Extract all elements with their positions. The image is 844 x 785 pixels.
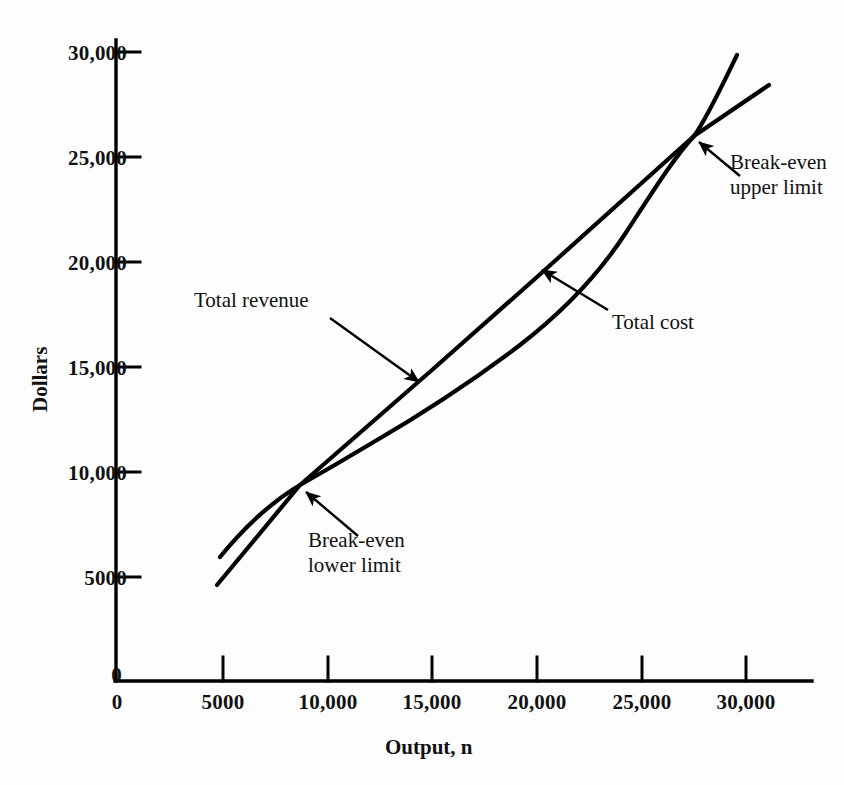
y-tick-label-25000: 25,000 — [68, 146, 127, 171]
annotation-break-even-lower: Break-even lower limit — [308, 528, 405, 578]
y-tick-label-5000: 5000 — [84, 566, 127, 591]
x-tick-label-5000: 5000 — [183, 690, 263, 715]
y-tick-label-15000: 15,000 — [68, 356, 127, 381]
break-even-lower-line2: lower limit — [308, 553, 405, 578]
annotation-total-cost: Total cost — [612, 310, 694, 335]
total-cost-arrow — [542, 270, 608, 310]
break-even-upper-line1: Break-even — [730, 150, 827, 175]
chart-canvas — [0, 0, 844, 785]
y-tick-label-20000: 20,000 — [68, 251, 127, 276]
breakeven-chart-figure: 30,000 25,000 20,000 15,000 10,000 5000 … — [0, 0, 844, 785]
annotation-break-even-upper: Break-even upper limit — [730, 150, 827, 200]
x-tick-label-0: 0 — [110, 690, 124, 715]
annotation-total-revenue: Total revenue — [194, 288, 309, 313]
y-tick-label-30000: 30,000 — [68, 41, 127, 66]
x-axis-title: Output, n — [385, 735, 473, 760]
x-axis-ticks — [223, 657, 746, 681]
x-tick-label-20000: 20,000 — [489, 690, 585, 715]
total-revenue-arrow — [330, 318, 419, 382]
y-axis-ticks — [116, 52, 140, 577]
y-tick-label-10000: 10,000 — [68, 461, 127, 486]
x-tick-label-30000: 30,000 — [698, 690, 794, 715]
y-axis-title: Dollars — [28, 347, 53, 412]
x-tick-label-15000: 15,000 — [384, 690, 480, 715]
x-tick-label-10000: 10,000 — [280, 690, 376, 715]
break-even-lower-line1: Break-even — [308, 528, 405, 553]
series-line-total-revenue — [217, 85, 769, 585]
break-even-upper-line2: upper limit — [730, 175, 827, 200]
x-tick-label-25000: 25,000 — [594, 690, 690, 715]
y-tick-label-0: 0 — [111, 663, 122, 688]
